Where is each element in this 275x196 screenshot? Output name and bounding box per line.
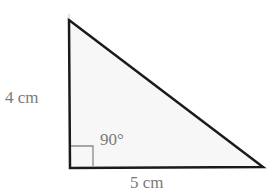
left-side-length-label: 4 cm	[5, 89, 39, 106]
right-angle-label: 90°	[100, 131, 124, 148]
bottom-side-length-label: 5 cm	[130, 174, 164, 191]
triangle-figure	[0, 0, 275, 196]
triangle-shape	[69, 20, 263, 168]
triangle-diagram: 4 cm 90° 5 cm	[0, 0, 275, 196]
